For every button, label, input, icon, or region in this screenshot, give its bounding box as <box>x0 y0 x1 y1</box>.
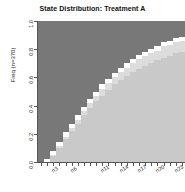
chart-title: State Distribution: Treatment A <box>0 5 185 12</box>
x-tick <box>84 162 85 166</box>
plot-area <box>38 21 185 162</box>
x-tick <box>47 162 48 166</box>
x-tick <box>59 162 60 166</box>
x-tick <box>170 162 171 166</box>
x-tick <box>133 162 134 166</box>
x-tick <box>115 162 116 166</box>
x-tick <box>151 162 152 166</box>
chart-figure: State Distribution: Treatment A Freq (n=… <box>0 0 185 192</box>
y-axis-tick-labels: 0.00.20.40.60.81.0 <box>0 21 31 162</box>
x-axis-tick-labels: n3n6n11n14n17n20n23 <box>38 168 185 184</box>
x-tick <box>90 162 91 166</box>
stacked-area-bands <box>38 21 185 162</box>
x-tick <box>96 162 97 166</box>
x-tick <box>41 162 42 166</box>
x-tick <box>78 162 79 166</box>
x-tick <box>108 162 109 166</box>
x-tick <box>66 162 67 166</box>
